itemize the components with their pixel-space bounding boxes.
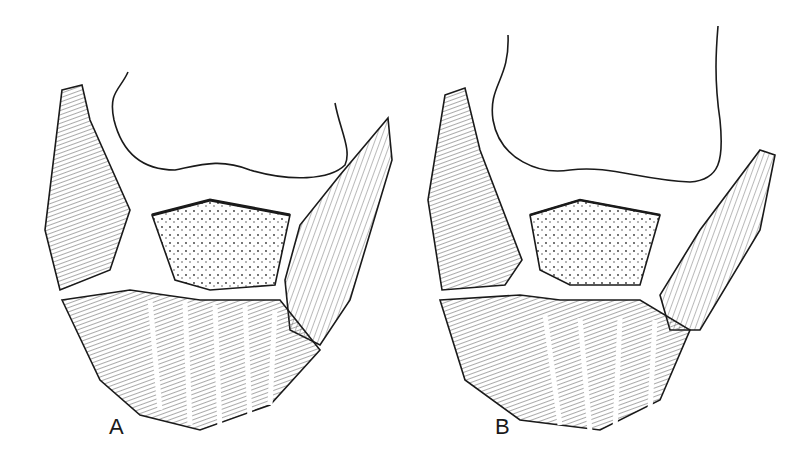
figure-canvas: A B (0, 0, 805, 476)
panel-label-a: A (109, 416, 124, 438)
anatomical-illustration (0, 0, 805, 476)
panel-a-drawing (45, 72, 392, 430)
panel-b-drawing (428, 26, 775, 432)
panel-label-b: B (495, 416, 510, 438)
